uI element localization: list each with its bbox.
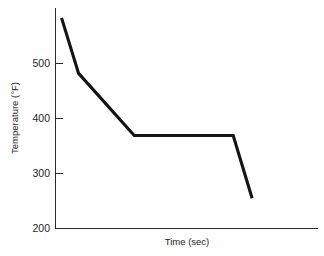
y-axis-title: Temperature (°F) [9,82,20,154]
y-tick-label-200: 200 [32,222,50,234]
x-axis-title: Time (sec) [165,236,210,247]
cooling-curve-chart: 500 400 300 200 Temperature (°F) Time (s… [0,0,324,256]
y-tick-label-300: 300 [32,167,50,179]
chart-figure: 500 400 300 200 Temperature (°F) Time (s… [0,0,324,256]
data-series-cooling-curve [62,18,253,198]
y-tick-label-400: 400 [32,112,50,124]
y-tick-label-500: 500 [32,57,50,69]
